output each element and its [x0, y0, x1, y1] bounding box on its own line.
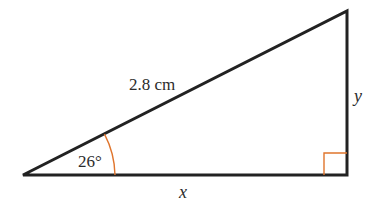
right-angle-marker — [324, 153, 347, 175]
base-label: x — [178, 182, 187, 202]
height-label: y — [352, 86, 362, 106]
angle-arc-marker — [105, 134, 116, 175]
hypotenuse-label: 2.8 cm — [129, 75, 175, 94]
triangle-outline — [23, 11, 347, 175]
angle-label: 26° — [78, 152, 102, 171]
right-triangle-diagram: 2.8 cm 26° x y — [0, 0, 381, 207]
